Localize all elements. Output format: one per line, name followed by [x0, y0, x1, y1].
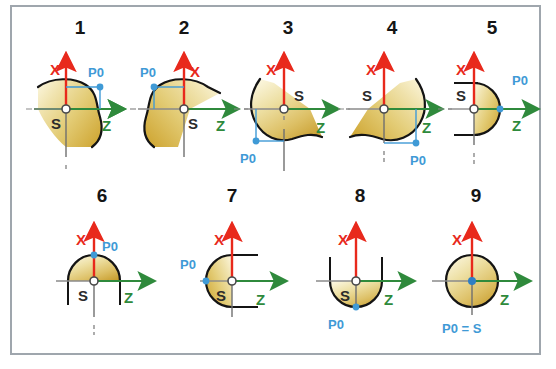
z-axis-label: Z: [422, 119, 431, 136]
origin-label: S: [456, 87, 466, 104]
origin-marker: [228, 277, 236, 285]
panel-8-figure: X Z S P0: [306, 207, 414, 345]
panel-3: 3 X Z S P0: [234, 17, 342, 177]
origin-marker: [62, 105, 70, 113]
origin-label: S: [294, 87, 304, 104]
panel-7: 7 X Z S P0: [178, 185, 286, 345]
z-axis-label: Z: [316, 119, 325, 136]
origin-label: S: [362, 87, 372, 104]
panel-2-figure: X Z S P0: [130, 39, 238, 177]
p0-marker: [91, 252, 98, 259]
origin-label: S: [51, 115, 61, 132]
panel-8: 8 X Z S P0: [306, 185, 414, 345]
p0-marker: [497, 106, 504, 113]
origin-label: S: [340, 287, 350, 304]
panel-6: 6 X Z S P0: [48, 185, 156, 345]
p0-label: P0: [240, 151, 256, 166]
panel-5-figure: X Z S P0: [438, 39, 546, 177]
panel-4-figure: X Z S P0: [338, 39, 446, 177]
panel-number: 6: [48, 185, 156, 207]
panel-3-figure: X Z S P0: [234, 39, 342, 177]
panel-4: 4 X Z S P0: [338, 17, 446, 177]
origin-marker: [380, 105, 388, 113]
panel-number: 5: [438, 17, 546, 39]
panel-number: 4: [338, 17, 446, 39]
x-axis-label: X: [190, 63, 200, 80]
origin-marker: [180, 105, 188, 113]
p0-label: P0: [102, 239, 118, 254]
z-axis-label: Z: [512, 117, 521, 134]
p0-label: P0: [328, 317, 344, 332]
z-axis-label: Z: [216, 117, 225, 134]
x-axis-label: X: [214, 231, 224, 248]
p0-label: P0 = S: [442, 321, 482, 336]
x-axis-label: X: [456, 61, 466, 78]
origin-marker: [90, 277, 98, 285]
panel-1: 1 X Z S P0: [26, 17, 134, 177]
panel-number: 3: [234, 17, 342, 39]
panel-number: 1: [26, 17, 134, 39]
x-axis-label: X: [452, 231, 462, 248]
panel-1-figure: X Z S P0: [26, 39, 134, 177]
z-axis-label: Z: [256, 291, 265, 308]
z-axis-label: Z: [124, 289, 133, 306]
panel-9-figure: X Z P0 = S: [422, 207, 530, 345]
x-axis-label: X: [338, 231, 348, 248]
panel-number: 7: [178, 185, 286, 207]
p0-label: P0: [410, 153, 426, 168]
origin-marker: [352, 277, 360, 285]
panel-number: 8: [306, 185, 414, 207]
x-axis-label: X: [76, 231, 86, 248]
p0-origin-marker: [468, 277, 476, 285]
panel-9: 9 X Z P0 = S: [422, 185, 530, 345]
panel-number: 2: [130, 17, 238, 39]
p0-marker: [353, 304, 360, 311]
panel-number: 9: [422, 185, 530, 207]
panel-2: 2 X Z S P0: [130, 17, 238, 177]
origin-marker: [470, 105, 478, 113]
p0-marker: [151, 84, 158, 91]
p0-marker: [97, 84, 104, 91]
origin-marker: [280, 105, 288, 113]
panel-5: 5 X Z S P0: [438, 17, 546, 177]
p0-marker: [253, 138, 260, 145]
panel-7-figure: X Z S P0: [178, 207, 286, 345]
p0-marker: [203, 278, 210, 285]
z-axis-label: Z: [102, 117, 111, 134]
panel-6-figure: X Z S P0: [48, 207, 156, 345]
x-axis-label: X: [366, 61, 376, 78]
x-axis-label: X: [50, 61, 60, 78]
z-axis-label: Z: [500, 291, 509, 308]
p0-marker: [413, 140, 420, 147]
p0-label: P0: [88, 65, 104, 80]
origin-label: S: [216, 287, 226, 304]
origin-label: S: [188, 115, 198, 132]
x-axis-label: X: [266, 61, 276, 78]
origin-label: S: [78, 287, 88, 304]
z-axis-label: Z: [384, 291, 393, 308]
p0-label: P0: [180, 257, 196, 272]
p0-label: P0: [512, 73, 528, 88]
diagram-frame: 1 X Z S P0 2: [10, 5, 541, 355]
p0-label: P0: [140, 65, 156, 80]
